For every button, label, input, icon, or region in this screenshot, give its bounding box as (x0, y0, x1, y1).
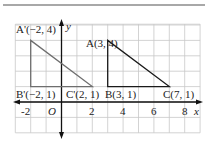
y-axis-arrow-up-icon (59, 19, 64, 26)
label-b: B(3, 1) (105, 88, 137, 101)
x-tick-neg2: -2 (21, 105, 30, 117)
label-b-prime: B'(−2, 1) (16, 88, 56, 101)
y-axis (59, 19, 64, 139)
x-axis-arrow-right-icon (196, 100, 203, 105)
x-axis-arrow-left-icon (13, 100, 20, 105)
y-axis-label: y (65, 20, 71, 32)
label-a-prime: A'(−2, 4) (16, 23, 56, 36)
coordinate-grid: A'(−2, 4) A(3, 4) B'(−2, 1) C'(2, 1) B(3… (0, 0, 213, 143)
label-c-prime: C'(2, 1) (66, 88, 99, 101)
x-tick-4: 4 (120, 105, 126, 117)
x-tick-6: 6 (151, 105, 157, 117)
x-axis-label: x (193, 105, 199, 117)
origin-label: O (48, 105, 56, 117)
label-c: C(7, 1) (163, 88, 195, 101)
label-a: A(3, 4) (86, 37, 118, 50)
x-tick-2: 2 (89, 105, 95, 117)
y-axis-arrow-down-icon (59, 132, 64, 139)
x-tick-8: 8 (182, 105, 188, 117)
